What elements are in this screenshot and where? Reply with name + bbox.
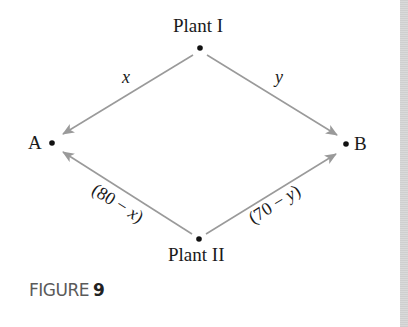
plant1-dot (197, 45, 203, 51)
figure-caption-number: 9 (93, 280, 104, 300)
network-diagram: Plant I Plant II A B x y (80 − x) (70 − … (0, 0, 408, 327)
plant1-label: Plant I (173, 15, 223, 37)
figure-caption: FIGURE9 (29, 280, 104, 300)
arrow-plant1-to-b (207, 55, 337, 135)
edge-label-y: y (275, 67, 283, 88)
diagram-graphics (0, 0, 408, 327)
a-label: A (28, 132, 42, 154)
figure-caption-word: FIGURE (29, 280, 89, 300)
plant2-label: Plant II (168, 244, 224, 266)
b-label: B (354, 133, 367, 155)
edge-label-x: x (122, 67, 130, 88)
a-dot (49, 140, 55, 146)
b-dot (343, 141, 349, 147)
plant2-dot (196, 236, 202, 242)
page-edge-strip (400, 0, 408, 327)
